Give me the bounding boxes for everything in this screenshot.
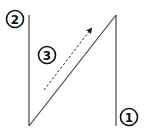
label-1-badge: 1 [121, 109, 138, 126]
diagram-canvas: 2 3 1 [0, 0, 160, 139]
label-2-badge: 2 [7, 11, 24, 28]
label-3-text: 3 [43, 49, 51, 63]
label-3-badge: 3 [39, 47, 56, 64]
label-1-text: 1 [125, 111, 133, 125]
diagonal-line [29, 15, 116, 126]
label-2-text: 2 [11, 13, 19, 27]
